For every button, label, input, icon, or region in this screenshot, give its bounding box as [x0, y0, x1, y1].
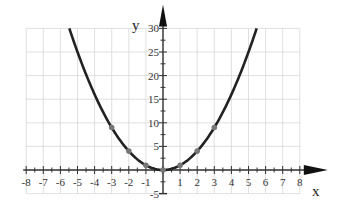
svg-text:8: 8: [297, 176, 303, 188]
svg-text:-2: -2: [124, 176, 133, 188]
data-point: [143, 162, 149, 168]
data-point: [160, 167, 166, 173]
svg-text:6: 6: [263, 176, 269, 188]
svg-text:-5: -5: [150, 188, 160, 200]
svg-text:-8: -8: [22, 176, 32, 188]
svg-text:-6: -6: [56, 176, 66, 188]
x-axis-label: x: [312, 183, 320, 199]
y-axis-label: y: [132, 17, 140, 33]
svg-text:7: 7: [280, 176, 286, 188]
svg-text:25: 25: [148, 46, 160, 58]
svg-text:5: 5: [154, 140, 160, 152]
data-point: [126, 148, 132, 154]
chart: -8-7-6-5-4-3-2-11234567830252015105-5 x …: [0, 0, 340, 215]
data-point: [212, 125, 218, 131]
svg-text:-1: -1: [141, 176, 150, 188]
svg-text:5: 5: [246, 176, 252, 188]
svg-text:3: 3: [212, 176, 218, 188]
data-point: [194, 148, 200, 154]
data-point: [109, 125, 115, 131]
svg-text:15: 15: [148, 93, 160, 105]
svg-text:30: 30: [148, 22, 160, 34]
svg-text:2: 2: [194, 176, 200, 188]
svg-text:-4: -4: [90, 176, 100, 188]
svg-text:1: 1: [177, 176, 183, 188]
svg-text:10: 10: [148, 117, 160, 129]
svg-text:-3: -3: [107, 176, 117, 188]
parabola-plot: -8-7-6-5-4-3-2-11234567830252015105-5 x …: [0, 0, 340, 215]
svg-text:-5: -5: [73, 176, 83, 188]
svg-text:-7: -7: [39, 176, 49, 188]
data-point: [177, 162, 183, 168]
svg-text:20: 20: [148, 70, 160, 82]
svg-text:4: 4: [229, 176, 235, 188]
